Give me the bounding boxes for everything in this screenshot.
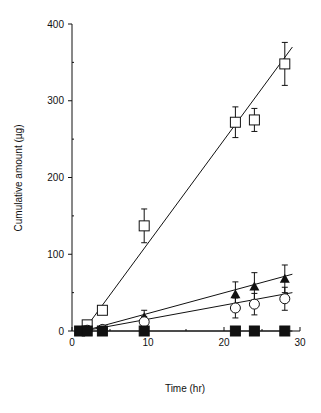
- fit-line: [83, 293, 292, 331]
- open-square-marker: [139, 221, 149, 231]
- y-tick-label: 0: [58, 326, 64, 337]
- open-square-marker: [97, 305, 107, 315]
- x-tick-label: 10: [142, 337, 154, 348]
- filled-square-marker: [280, 326, 290, 336]
- open-square-marker: [249, 115, 259, 125]
- x-axis-label: Time (hr): [165, 383, 205, 394]
- filled-square-marker: [97, 326, 107, 336]
- x-tick-label: 0: [69, 337, 75, 348]
- fit-line: [83, 47, 292, 331]
- y-tick-label: 100: [47, 249, 64, 260]
- data-points: [75, 42, 290, 336]
- fit-lines: [80, 47, 293, 331]
- filled-square-marker: [139, 326, 149, 336]
- open-circle-marker: [280, 294, 290, 304]
- chart: 01002003004000102030 Time (hr) Cumulativ…: [0, 0, 321, 413]
- open-square-marker: [230, 117, 240, 127]
- open-circle-marker: [230, 303, 240, 313]
- filled-square-marker: [230, 326, 240, 336]
- open-circle-marker: [139, 317, 149, 327]
- y-tick-label: 400: [47, 19, 64, 30]
- open-circle-marker: [249, 299, 259, 309]
- open-square-marker: [280, 59, 290, 69]
- y-axis-label: Cumulative amount (µg): [13, 125, 24, 232]
- filled-square-marker: [249, 326, 259, 336]
- y-tick-label: 200: [47, 172, 64, 183]
- filled-square-marker: [82, 326, 92, 336]
- x-tick-label: 20: [218, 337, 230, 348]
- y-tick-label: 300: [47, 95, 64, 106]
- x-tick-label: 30: [294, 337, 306, 348]
- axes: 01002003004000102030: [47, 19, 306, 349]
- fit-line: [83, 274, 292, 331]
